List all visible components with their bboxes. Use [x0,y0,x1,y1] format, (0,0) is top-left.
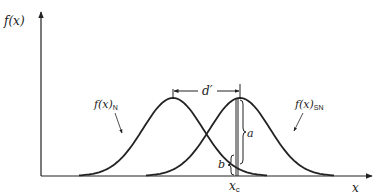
noise-curve-label: f(x)N [93,98,118,111]
noise-label-leader [115,113,122,133]
x-axis-label: x [352,181,359,195]
signal-noise-curve-label: f(x)SN [294,98,324,111]
signal-noise-label-leader [294,113,303,131]
criterion-label: xc [229,179,240,194]
sdt-diagram: f(x) x d′ a b xc f(x)N f(x)SN [0,0,379,196]
brace-a [240,100,246,164]
brace-a-label: a [247,127,254,140]
y-axis-label: f(x) [3,14,25,28]
brace-b-label: b [218,158,225,171]
d-prime-label: d′ [202,84,213,98]
